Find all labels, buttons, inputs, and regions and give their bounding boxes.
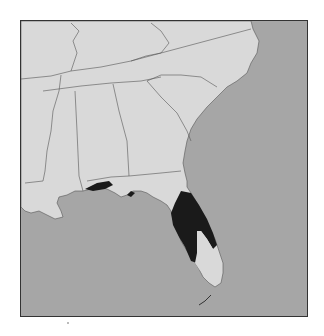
map-frame <box>20 20 308 317</box>
stray-mark <box>67 322 69 324</box>
range-map <box>21 21 308 317</box>
